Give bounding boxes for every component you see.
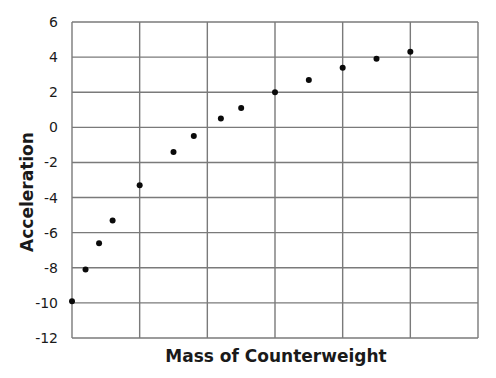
data-point: [110, 217, 116, 223]
data-point: [69, 298, 75, 304]
data-point: [137, 182, 143, 188]
x-axis-label: Mass of Counterweight: [165, 346, 386, 366]
y-tick-label: -4: [44, 190, 58, 206]
data-point: [96, 240, 102, 246]
y-axis-label: Acceleration: [17, 132, 37, 252]
data-point: [83, 267, 89, 273]
plot-grid: [72, 22, 478, 338]
y-axis-ticks: 6420-2-4-6-8-10-12: [35, 14, 58, 346]
data-point: [218, 116, 224, 122]
scatter-chart: 6420-2-4-6-8-10-12 Mass of Counterweight…: [0, 0, 496, 378]
data-point: [306, 77, 312, 83]
data-point: [340, 65, 346, 71]
y-tick-label: 4: [49, 49, 58, 65]
y-tick-label: -12: [35, 330, 58, 346]
data-point: [191, 133, 197, 139]
y-tick-label: -10: [35, 295, 58, 311]
y-tick-label: 2: [49, 84, 58, 100]
data-point: [238, 105, 244, 111]
data-point: [171, 149, 177, 155]
y-tick-label: -2: [44, 154, 58, 170]
data-point: [272, 89, 278, 95]
y-tick-label: -8: [44, 260, 58, 276]
y-tick-label: 0: [49, 119, 58, 135]
data-points: [69, 49, 413, 304]
data-point: [407, 49, 413, 55]
y-tick-label: 6: [49, 14, 58, 30]
data-point: [374, 56, 380, 62]
y-tick-label: -6: [44, 225, 58, 241]
